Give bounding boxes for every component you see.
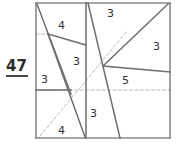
label-3-right-edge: 3	[153, 40, 160, 53]
label-3-top-right: 3	[107, 7, 114, 20]
geometry-figure: 43333534	[0, 0, 179, 148]
label-3-left-mid: 3	[73, 55, 80, 68]
label-3-left-small: 3	[41, 73, 48, 86]
figure-stage: 47 43333534	[0, 0, 179, 148]
chord-right-low	[103, 66, 170, 72]
dashed-lines-group	[36, 31, 170, 136]
label-4-bottom: 4	[58, 124, 65, 137]
cevian-left-long	[48, 34, 85, 137]
figure-labels-group: 43333534	[41, 7, 160, 137]
label-5-center: 5	[122, 74, 129, 87]
chord-upper-left	[48, 34, 86, 45]
label-3-lower-mid: 3	[90, 107, 97, 120]
solid-lines-group	[36, 3, 170, 138]
label-4-top-left: 4	[58, 19, 65, 32]
